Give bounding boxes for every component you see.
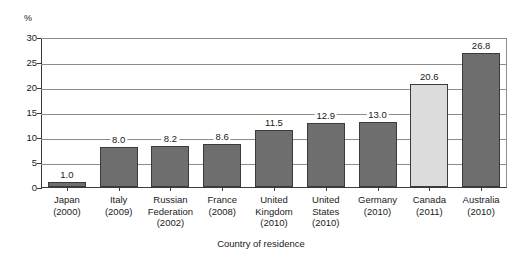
bar-slot: 8.2	[145, 39, 197, 187]
category-year: (2000)	[41, 206, 93, 218]
y-axis-tick-label: 10	[7, 133, 37, 143]
category-name-line: Kingdom	[248, 206, 300, 218]
x-axis-tick-mark	[274, 187, 275, 191]
x-axis-category-label: UnitedKingdom(2010)	[248, 194, 300, 229]
bar-slot: 13.0	[352, 39, 404, 187]
category-name-line: France	[196, 194, 248, 206]
category-name-line: Federation	[145, 206, 197, 218]
bar-value-label: 26.8	[470, 40, 493, 51]
x-axis-tick-mark	[481, 187, 482, 191]
bar-slot: 11.5	[248, 39, 300, 187]
x-axis-tick-mark	[67, 187, 68, 191]
bar-slot: 20.6	[403, 39, 455, 187]
category-name-line: States	[300, 206, 352, 218]
x-axis-tick-mark	[222, 187, 223, 191]
bar-value-label: 8.2	[162, 133, 179, 144]
bar-slot: 8.0	[93, 39, 145, 187]
x-axis-title: Country of residence	[0, 238, 522, 249]
y-axis-unit-label: %	[24, 13, 32, 23]
bar-slot: 8.6	[196, 39, 248, 187]
x-axis-category-label: Canada(2011)	[403, 194, 455, 217]
x-axis-tick-mark	[119, 187, 120, 191]
category-name-line: United	[300, 194, 352, 206]
category-year: (2009)	[93, 206, 145, 218]
category-name-line: Italy	[93, 194, 145, 206]
bar[interactable]	[410, 84, 448, 187]
x-axis-category-label: Japan(2000)	[41, 194, 93, 217]
category-name-line: Australia	[455, 194, 507, 206]
x-axis-category-label: UnitedStates(2010)	[300, 194, 352, 229]
category-year: (2002)	[145, 217, 197, 229]
x-axis-tick-labels: Japan(2000)Italy(2009)RussianFederation(…	[41, 194, 507, 238]
y-axis-tick-label: 15	[7, 108, 37, 118]
y-axis-tick-label: 30	[7, 33, 37, 43]
category-name-line: United	[248, 194, 300, 206]
y-axis-tick-label: 0	[7, 183, 37, 193]
category-year: (2010)	[300, 217, 352, 229]
bar-value-label: 11.5	[263, 117, 285, 128]
y-axis-tick-label: 25	[7, 58, 37, 68]
bar[interactable]	[151, 146, 189, 187]
category-name-line: Canada	[403, 194, 455, 206]
category-year: (2010)	[248, 217, 300, 229]
x-axis-tick-mark	[378, 187, 379, 191]
bar[interactable]	[462, 53, 500, 187]
category-name-line: Russian	[145, 194, 197, 206]
bar-slot: 26.8	[455, 39, 507, 187]
x-axis-tick-mark	[429, 187, 430, 191]
x-axis-tick-mark	[170, 187, 171, 191]
category-year: (2010)	[455, 206, 507, 218]
bar[interactable]	[255, 130, 293, 188]
bar-slot: 12.9	[300, 39, 352, 187]
y-axis-tick-label: 5	[7, 158, 37, 168]
bar-value-label: 1.0	[58, 169, 75, 180]
bar-value-label: 20.6	[418, 71, 441, 82]
bar-value-label: 12.9	[315, 110, 338, 121]
x-axis-category-label: France(2008)	[196, 194, 248, 217]
bar[interactable]	[359, 122, 397, 187]
y-axis-tick-labels: 051015202530	[5, 38, 37, 188]
bar[interactable]	[203, 144, 241, 187]
x-axis-category-label: Australia(2010)	[455, 194, 507, 217]
plot-area: 1.08.08.28.611.512.913.020.626.8	[41, 38, 507, 188]
category-year: (2008)	[196, 206, 248, 218]
bar-value-label: 8.0	[110, 134, 127, 145]
x-axis-category-label: Germany(2010)	[352, 194, 404, 217]
bar-value-label: 8.6	[214, 131, 231, 142]
bar[interactable]	[100, 147, 138, 187]
y-axis-tick-label: 20	[7, 83, 37, 93]
bar[interactable]	[307, 123, 345, 188]
bar-value-label: 13.0	[366, 109, 389, 120]
category-name-line: Japan	[41, 194, 93, 206]
bar-slot: 1.0	[41, 39, 93, 187]
x-axis-tick-mark	[326, 187, 327, 191]
x-axis-category-label: Italy(2009)	[93, 194, 145, 217]
bar-chart: % 051015202530 1.08.08.28.611.512.913.02…	[0, 0, 522, 262]
category-year: (2010)	[352, 206, 404, 218]
x-axis-category-label: RussianFederation(2002)	[145, 194, 197, 229]
category-name-line: Germany	[352, 194, 404, 206]
category-year: (2011)	[403, 206, 455, 218]
